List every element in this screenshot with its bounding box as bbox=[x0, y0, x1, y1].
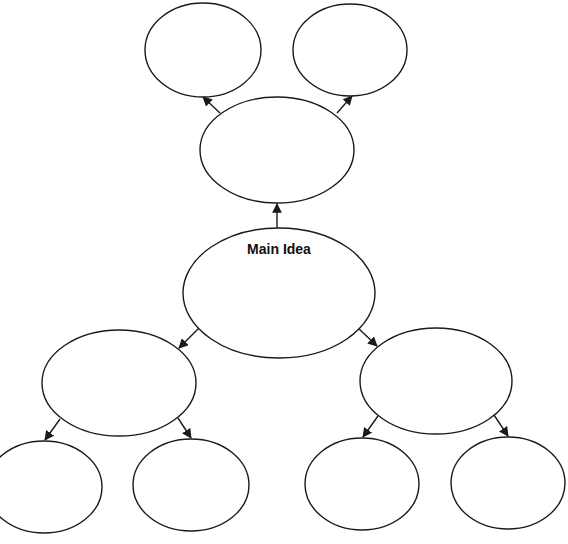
node-bottom-1 bbox=[0, 441, 102, 533]
concept-map-canvas bbox=[0, 0, 568, 544]
arrow-upper-middle-to-top-right bbox=[337, 96, 352, 113]
node-top-left bbox=[145, 3, 261, 97]
arrow-left-middle-to-bottom-1 bbox=[45, 419, 60, 440]
node-top-right bbox=[293, 4, 407, 96]
node-bottom-4 bbox=[451, 437, 565, 529]
node-bottom-2 bbox=[133, 439, 249, 531]
arrow-left-middle-to-bottom-2 bbox=[178, 418, 191, 438]
node-right-middle bbox=[360, 328, 512, 434]
arrow-main-to-right-middle bbox=[357, 327, 377, 346]
arrow-right-middle-to-bottom-3 bbox=[363, 416, 378, 437]
node-upper-middle bbox=[200, 97, 354, 203]
arrow-right-middle-to-bottom-4 bbox=[494, 415, 508, 436]
arrow-main-to-left-middle bbox=[179, 327, 200, 348]
arrow-upper-middle-to-top-left bbox=[203, 97, 220, 113]
node-bottom-3 bbox=[305, 438, 419, 530]
node-left-middle bbox=[42, 330, 196, 436]
main-idea-label: Main Idea bbox=[247, 241, 311, 257]
